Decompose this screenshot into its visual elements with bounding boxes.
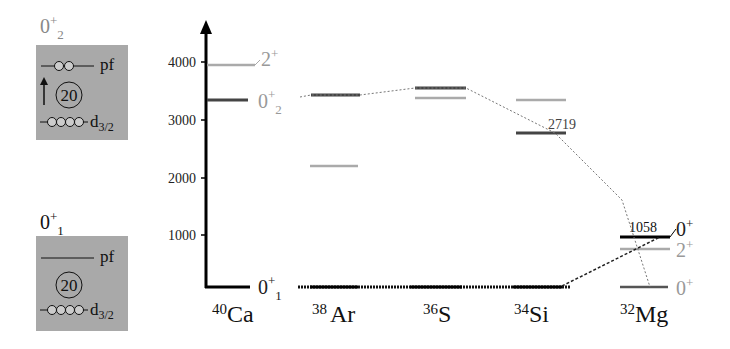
inset-bottom-0plus1: 0+1 pf 20 d3/2 <box>36 209 128 331</box>
level-scheme-diagram: 0+2 pf 20 d3/2 0+1 pf 20 d3/2 <box>0 0 730 349</box>
tick-label-1000: 1000 <box>168 228 196 243</box>
connection-lines <box>300 88 660 287</box>
nucleus-label-ar38: 38Ar <box>312 301 355 327</box>
ca-0plus1-label: 0+1 <box>258 273 282 303</box>
mg-0plus-ground-label: 0+ <box>676 275 693 299</box>
tick-label-3000: 3000 <box>168 113 196 128</box>
particle-icon <box>66 306 75 315</box>
inset-top-title: 0+2 <box>40 13 64 42</box>
nucleus-labels: 40Ca 38Ar 36S 34Si 32Mg <box>212 301 668 327</box>
s36-levels <box>415 88 466 98</box>
shell-number: 20 <box>61 86 78 105</box>
mg-2plus-label: 2+ <box>676 237 693 261</box>
particle-icon <box>57 306 66 315</box>
ca-2plus-label-tie <box>255 60 260 65</box>
tick-label-2000: 2000 <box>168 171 196 186</box>
inset-top-0plus2: 0+2 pf 20 d3/2 <box>36 13 128 140</box>
particle-icon <box>48 118 57 127</box>
tick-label-4000: 4000 <box>168 55 196 70</box>
nucleus-label-ca40: 40Ca <box>212 301 254 327</box>
ca-0plus2-label: 0+2 <box>258 87 282 117</box>
particle-icon <box>57 118 66 127</box>
ca40-levels: 2+ 0+2 0+1 <box>207 46 282 303</box>
si-to-mg-intruder-line <box>562 237 660 286</box>
inset-bottom-title: 0+1 <box>40 209 64 238</box>
particle-icon <box>75 118 84 127</box>
nucleus-label-si34: 34Si <box>514 301 549 327</box>
0plus2-trend-line <box>300 88 650 287</box>
particle-icon <box>75 306 84 315</box>
ar38-levels <box>310 95 360 166</box>
si-energy-label: 2719 <box>548 117 576 132</box>
particle-icon <box>66 118 75 127</box>
energy-axis: 1000 2000 3000 4000 <box>168 20 212 288</box>
nucleus-label-mg32: 32Mg <box>620 301 668 327</box>
pf-label: pf <box>100 247 115 266</box>
axis-arrow-icon <box>200 20 212 34</box>
particle-icon <box>48 306 57 315</box>
particle-icon <box>55 62 64 71</box>
shell-number: 20 <box>61 276 78 295</box>
ca-2plus-label: 2+ <box>261 46 278 70</box>
particle-icon <box>65 62 74 71</box>
nucleus-label-s36: 36S <box>423 301 451 327</box>
pf-label: pf <box>100 55 115 74</box>
mg-energy-label: 1058 <box>629 220 657 235</box>
